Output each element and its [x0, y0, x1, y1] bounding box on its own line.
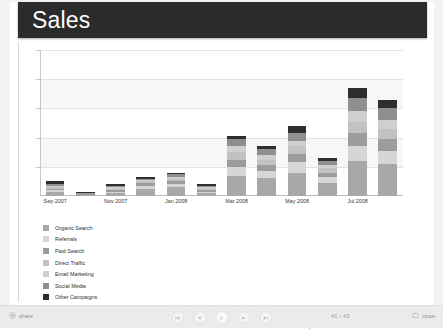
legend-item[interactable]: Other Campaigns [35, 292, 235, 304]
chart-bar-segment [378, 108, 397, 120]
x-axis-tick-label: Mar 2008 [225, 198, 248, 204]
legend-label: Direct Traffic [55, 260, 85, 266]
chart-bar-segment [288, 126, 307, 133]
chart-bar-segment [318, 183, 337, 196]
share-icon [9, 312, 16, 319]
play-icon [219, 315, 225, 321]
y-axis-tick [36, 50, 41, 51]
chart-bar-segment [288, 154, 307, 163]
chart-bar [136, 177, 155, 196]
legend-item[interactable]: Paid Search [35, 245, 235, 257]
legend-swatch [43, 271, 49, 277]
chart-bar-segment [288, 162, 307, 172]
page-title: Sales [32, 6, 91, 34]
next-slide-button[interactable] [237, 311, 250, 324]
chart-bar-segment [378, 151, 397, 164]
legend-label: Social Media [55, 283, 86, 289]
chart-bar-segment [227, 176, 246, 196]
slide-navigation-controls [171, 311, 272, 324]
legend-item[interactable]: Email Marketing [35, 268, 235, 280]
close-icon [412, 312, 419, 319]
chart-bar-segment [288, 146, 307, 153]
legend-item[interactable]: Organic Search [35, 222, 235, 234]
last-slide-button[interactable] [259, 311, 272, 324]
bottom-toolbar: share [0, 305, 443, 328]
play-button[interactable] [215, 311, 228, 324]
chart-bar-segment [76, 195, 95, 196]
chart-bar [106, 184, 125, 196]
share-label: share [19, 313, 33, 319]
legend-swatch [43, 248, 49, 254]
chart-bars [27, 50, 403, 210]
chart-bar [76, 192, 95, 196]
legend-swatch [43, 294, 49, 300]
page-counter: 41 / 43 [331, 313, 350, 319]
chart-bar-segment [257, 171, 276, 178]
chart-bar [257, 146, 276, 196]
chart-bar [288, 126, 307, 196]
legend-label: Organic Search [55, 225, 92, 231]
legend-label: Paid Search [55, 248, 84, 254]
chart-bar-segment [197, 193, 216, 196]
close-label: close [422, 313, 435, 319]
chart-bar [348, 88, 367, 196]
chart-bar-segment [46, 192, 65, 196]
chart-bar-segment [227, 160, 246, 167]
chart-bar-segment [348, 133, 367, 146]
slide-title-bar: Sales [18, 2, 427, 38]
chart-bar-segment [378, 129, 397, 139]
chart-bar-segment [227, 139, 246, 146]
legend-item[interactable]: Referrals [35, 234, 235, 246]
chart-bar-segment [167, 187, 186, 196]
x-axis-labels: Sep 2007Nov 2007Jan 2008Mar 2008May 2008… [40, 197, 403, 210]
share-button[interactable]: share [9, 312, 33, 319]
chart-bar [197, 184, 216, 196]
chart-bar-segment [227, 167, 246, 176]
chart-bar-segment [378, 139, 397, 151]
slide-body: Sep 2007Nov 2007Jan 2008Mar 2008May 2008… [18, 42, 427, 302]
chart-bar-segment [106, 193, 125, 196]
x-axis-tick-label: Sep 2007 [44, 198, 67, 204]
chart-bar-segment [288, 173, 307, 196]
chart-legend: Organic SearchReferralsPaid SearchDirect… [35, 222, 235, 303]
chart-bar-segment [348, 146, 367, 161]
chevron-left-icon [197, 315, 203, 321]
legend-swatch [43, 283, 49, 289]
legend-swatch [43, 236, 49, 242]
chart-bar-segment [348, 98, 367, 111]
legend-label: Referrals [55, 236, 77, 242]
chart-bar-segment [257, 178, 276, 196]
close-button[interactable]: close [412, 312, 435, 319]
chart-bar-segment [136, 189, 155, 196]
legend-swatch [43, 260, 49, 266]
previous-slide-button[interactable] [193, 311, 206, 324]
chart-bar-segment [288, 133, 307, 140]
legend-label: Email Marketing [55, 271, 94, 277]
chart-bar [167, 173, 186, 196]
chart-bar [227, 136, 246, 196]
chart-bar-segment [348, 122, 367, 134]
first-slide-button[interactable] [171, 311, 184, 324]
chart-bar-segment [378, 100, 397, 109]
chart-bar-segment [227, 152, 246, 159]
y-axis-tick [36, 108, 41, 109]
chart-bar-segment [378, 164, 397, 196]
chart-bar [46, 181, 65, 196]
legend-item[interactable]: Social Media [35, 280, 235, 292]
stacked-bar-chart: Sep 2007Nov 2007Jan 2008Mar 2008May 2008… [27, 50, 403, 210]
skip-forward-icon [263, 315, 269, 321]
y-axis-tick [36, 167, 41, 168]
chevron-right-icon [241, 315, 247, 321]
skip-back-icon [175, 315, 181, 321]
legend-item[interactable]: Direct Traffic [35, 257, 235, 269]
chart-bar [318, 158, 337, 196]
chart-bar-segment [348, 111, 367, 121]
x-axis-tick-label: May 2008 [285, 198, 309, 204]
x-axis-tick-label: Jul 2008 [347, 198, 367, 204]
chart-bar [378, 100, 397, 196]
legend-label: Other Campaigns [55, 294, 97, 300]
chart-bar-segment [348, 88, 367, 98]
legend-swatch [43, 225, 49, 231]
y-axis-tick [36, 79, 41, 80]
